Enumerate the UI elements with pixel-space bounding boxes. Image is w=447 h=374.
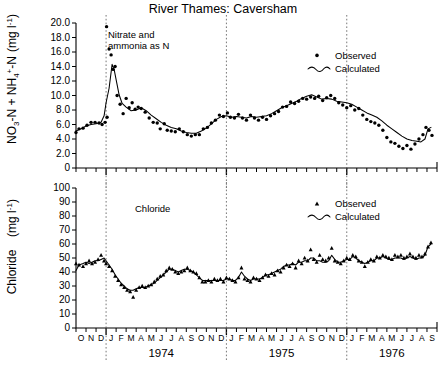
x-month-label: J bbox=[350, 333, 354, 343]
observed-marker bbox=[124, 97, 127, 100]
observed-marker bbox=[369, 120, 372, 123]
observed-marker bbox=[109, 53, 112, 56]
x-month-label: J bbox=[289, 333, 293, 343]
x-year-label: 1976 bbox=[379, 347, 405, 359]
x-month-label: A bbox=[419, 333, 425, 343]
x-month-label: J bbox=[410, 333, 414, 343]
x-month-label: M bbox=[368, 333, 375, 343]
x-month-label: N bbox=[329, 333, 335, 343]
y-tick-label: 0 bbox=[64, 322, 70, 333]
x-year-label: 1975 bbox=[269, 347, 295, 359]
x-month-label: N bbox=[208, 333, 214, 343]
observed-marker bbox=[103, 121, 106, 124]
observed-marker bbox=[166, 129, 169, 132]
observed-marker bbox=[424, 126, 427, 129]
x-month-label: J bbox=[229, 333, 233, 343]
x-month-label: F bbox=[239, 333, 244, 343]
x-month-label: M bbox=[388, 333, 395, 343]
x-month-label: J bbox=[279, 333, 283, 343]
panel-annotation: ammonia as N bbox=[108, 40, 169, 51]
observed-marker bbox=[130, 101, 133, 104]
y-tick-label: 6.0 bbox=[56, 119, 70, 130]
observed-marker bbox=[417, 137, 420, 140]
observed-marker bbox=[237, 113, 240, 116]
observed-marker bbox=[257, 118, 260, 121]
y-tick-label: 10.0 bbox=[51, 90, 71, 101]
observed-marker bbox=[377, 124, 380, 127]
observed-marker bbox=[105, 25, 108, 28]
page-title: River Thames: Caversham bbox=[149, 2, 297, 16]
observed-marker bbox=[159, 127, 162, 130]
y-tick-label: 40 bbox=[59, 266, 71, 277]
x-month-label: M bbox=[128, 333, 135, 343]
observed-marker bbox=[198, 133, 201, 136]
legend-observed-marker bbox=[315, 54, 319, 58]
observed-marker bbox=[385, 136, 388, 139]
x-month-label: A bbox=[178, 333, 184, 343]
y-tick-label: 16.0 bbox=[51, 46, 71, 57]
x-month-label: J bbox=[109, 333, 113, 343]
observed-marker bbox=[305, 97, 308, 100]
observed-marker bbox=[397, 145, 400, 148]
observed-marker bbox=[190, 134, 193, 137]
x-month-label: A bbox=[259, 333, 265, 343]
legend-observed-label: Observed bbox=[335, 50, 376, 61]
x-month-label: D bbox=[339, 333, 345, 343]
observed-marker bbox=[121, 112, 124, 115]
observed-marker bbox=[313, 97, 316, 100]
legend-calculated-label: Calculated bbox=[335, 63, 380, 74]
x-month-label: A bbox=[379, 333, 385, 343]
y-tick-label: 18.0 bbox=[51, 32, 71, 43]
x-month-label: S bbox=[429, 333, 435, 343]
y-tick-label: 20 bbox=[59, 294, 71, 305]
panel-annotation: Nitrate and bbox=[108, 29, 154, 40]
observed-marker bbox=[115, 94, 118, 97]
observed-marker bbox=[405, 144, 408, 147]
observed-marker bbox=[401, 147, 404, 150]
y-tick-label: 50 bbox=[59, 252, 71, 263]
x-year-label: 1974 bbox=[148, 347, 174, 359]
panel-annotation: Chloride bbox=[135, 203, 170, 214]
observed-marker bbox=[89, 121, 92, 124]
observed-marker bbox=[100, 123, 103, 126]
x-month-label: D bbox=[218, 333, 224, 343]
observed-marker bbox=[148, 116, 151, 119]
observed-marker bbox=[329, 94, 332, 97]
observed-marker bbox=[152, 121, 155, 124]
observed-marker bbox=[265, 118, 268, 121]
x-month-label: F bbox=[359, 333, 364, 343]
observed-marker bbox=[245, 118, 248, 121]
observed-marker bbox=[353, 108, 356, 111]
y-tick-label: 70 bbox=[59, 224, 71, 235]
x-month-label: M bbox=[248, 333, 255, 343]
x-month-label: S bbox=[309, 333, 315, 343]
x-month-label: F bbox=[119, 333, 124, 343]
observed-marker bbox=[345, 106, 348, 109]
observed-marker bbox=[174, 130, 177, 133]
svg-text:Chloride: Chloride bbox=[5, 249, 19, 294]
observed-marker bbox=[361, 113, 364, 116]
observed-marker bbox=[373, 121, 376, 124]
x-month-label: M bbox=[148, 333, 155, 343]
observed-marker bbox=[421, 133, 424, 136]
x-month-label: S bbox=[188, 333, 194, 343]
x-month-label: A bbox=[138, 333, 144, 343]
observed-marker bbox=[186, 133, 189, 136]
y-tick-label: 0 bbox=[64, 162, 70, 173]
y-tick-label: 10 bbox=[59, 308, 71, 319]
observed-marker bbox=[389, 140, 392, 143]
observed-marker bbox=[365, 118, 368, 121]
x-month-label: J bbox=[159, 333, 163, 343]
y-tick-label: 8.0 bbox=[56, 104, 70, 115]
y-tick-label: 60 bbox=[59, 238, 71, 249]
x-month-label: O bbox=[318, 333, 325, 343]
observed-marker bbox=[218, 113, 221, 116]
y-tick-label: 4.0 bbox=[56, 133, 70, 144]
y-tick-label: 12.0 bbox=[51, 75, 71, 86]
legend-observed-label: Observed bbox=[335, 198, 376, 209]
y-tick-label: 30 bbox=[59, 280, 71, 291]
y-tick-label: 100 bbox=[53, 182, 70, 193]
observed-marker bbox=[118, 103, 121, 106]
x-month-label: J bbox=[400, 333, 404, 343]
y-tick-label: 2.0 bbox=[56, 148, 70, 159]
